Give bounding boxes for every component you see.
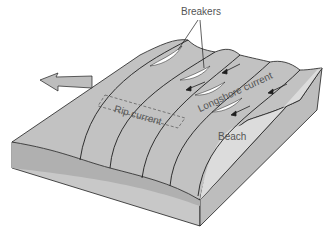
beach-label: Beach — [218, 131, 246, 142]
rip-current-diagram — [0, 0, 333, 238]
breakers-label: Breakers — [181, 6, 221, 17]
rip-current-arrow-icon — [40, 73, 92, 91]
